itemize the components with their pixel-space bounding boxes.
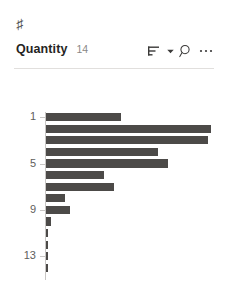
panel-toolbar <box>144 42 216 60</box>
more-options-button[interactable] <box>196 42 216 60</box>
chart-bar[interactable] <box>46 136 208 144</box>
data-type-icon-row: ♯ <box>16 17 23 33</box>
axis-tick-label: 5 <box>10 158 36 169</box>
distinct-count-badge: 14 <box>77 42 89 56</box>
page-title: Quantity <box>16 42 68 56</box>
chart-bar[interactable] <box>46 125 211 133</box>
chart-bar[interactable] <box>46 206 70 214</box>
axis-tick-label: 9 <box>10 204 36 215</box>
chart-plot-area: 15913 <box>0 104 226 289</box>
value-distribution-chart: 15913 <box>0 104 226 289</box>
chart-bar[interactable] <box>46 229 48 237</box>
chart-bar[interactable] <box>46 113 121 121</box>
chart-bar[interactable] <box>46 194 65 202</box>
axis-tick-mark <box>40 256 45 257</box>
chart-bar[interactable] <box>46 264 48 272</box>
hash-icon: ♯ <box>16 17 23 31</box>
axis-tick-mark <box>40 210 45 211</box>
sort-button[interactable] <box>144 42 164 60</box>
chevron-down-icon <box>167 49 174 54</box>
chart-bar[interactable] <box>46 241 48 249</box>
chart-bar[interactable] <box>46 159 168 167</box>
more-options-icon <box>199 49 213 53</box>
chart-bar[interactable] <box>46 183 114 191</box>
chart-bar[interactable] <box>46 252 48 260</box>
chart-bar[interactable] <box>46 148 158 156</box>
axis-tick-mark <box>40 164 45 165</box>
sort-dropdown-button[interactable] <box>164 42 176 60</box>
chart-bar[interactable] <box>46 217 51 225</box>
chart-bar[interactable] <box>46 171 104 179</box>
search-button[interactable] <box>176 42 196 60</box>
axis-tick-mark <box>40 117 45 118</box>
search-icon <box>179 44 193 58</box>
column-profile-panel: ♯ Quantity 14 <box>0 0 226 289</box>
sort-icon <box>148 46 161 57</box>
axis-tick-label: 13 <box>10 250 36 261</box>
column-title-row: Quantity 14 <box>16 42 88 60</box>
panel-header: ♯ Quantity 14 <box>0 0 226 68</box>
header-divider <box>14 68 214 69</box>
axis-tick-label: 1 <box>10 111 36 122</box>
